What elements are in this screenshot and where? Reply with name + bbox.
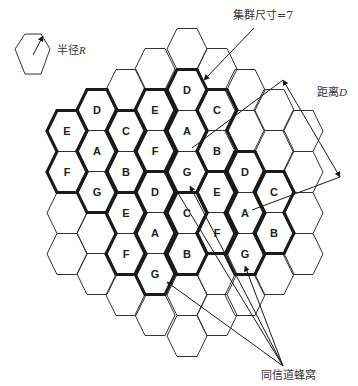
cell-label-b: B [122,166,130,178]
cell-label-a: A [93,145,101,157]
cell-label-b: B [183,248,191,260]
radius-label: 半径R [57,41,86,57]
hex-reuse-diagram: DECAFBGDECAFBGDECAFBGDECAFBG [0,0,358,386]
hex-cell [283,234,323,275]
distance-line-b [252,177,340,210]
cell-label-f: F [64,166,71,178]
cell-label-e: E [213,186,220,198]
hex-cell [197,295,237,336]
radius-arrow [33,36,43,55]
cell-label-c: C [213,104,221,116]
cell-label-g: G [151,268,160,280]
cell-label-f: F [123,248,130,260]
hex-cell [106,70,146,111]
distance-label: 距离D [317,83,347,99]
hex-cell [283,111,323,152]
hex-cell [167,29,207,70]
hex-cell [283,152,323,193]
cell-label-b: B [270,227,278,239]
cell-label-a: A [183,125,191,137]
cluster-size-arrow [204,28,254,80]
cell-label-g: G [183,166,192,178]
cell-label-a: A [241,207,249,219]
cell-label-g: G [241,248,250,260]
hex-cell [77,213,117,254]
hex-cell [254,90,294,131]
cell-label-e: E [151,104,158,116]
cell-label-e: E [63,125,70,137]
cell-label-b: B [213,145,221,157]
cochannel-cells-label: 同信道蜂窝 [261,366,316,382]
hex-cell [135,295,175,336]
hex-cell [167,316,207,357]
cell-label-c: C [270,186,278,198]
hex-cell [77,254,117,295]
radius-legend-hexagon [15,34,50,74]
hex-cell [106,275,146,316]
cell-label-a: A [151,227,159,239]
hex-cell [225,70,265,111]
hex-cell [254,131,294,172]
hex-cell [225,111,265,152]
cell-label-d: D [93,104,101,116]
cell-label-d: D [151,186,159,198]
cell-label-g: G [93,186,102,198]
cell-label-d: D [183,84,191,96]
cluster-size-label: 集群尺寸=7 [233,6,293,22]
cell-label-e: E [122,207,129,219]
hex-cell [283,193,323,234]
hex-cell [47,234,87,275]
cell-label-f: F [152,145,159,157]
cell-label-c: C [122,125,130,137]
hex-cell [254,254,294,295]
cell-label-d: D [241,166,249,178]
